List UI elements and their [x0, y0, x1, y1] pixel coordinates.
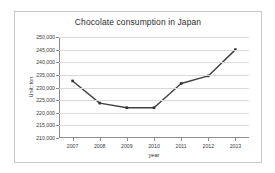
- x-tick-mark: [100, 138, 101, 141]
- y-tick-mark: [56, 75, 59, 76]
- gridline: [59, 62, 249, 63]
- x-tick-mark: [208, 138, 209, 141]
- x-tick-mark: [127, 138, 128, 141]
- y-axis-title: Unit: ton: [28, 77, 34, 98]
- y-tick-mark: [56, 125, 59, 126]
- data-point-marker: [126, 106, 129, 109]
- x-tick-mark: [235, 138, 236, 141]
- chart-container: Chocolate consumption in Japan 210,00021…: [14, 11, 262, 163]
- y-tick-label: 230,000: [36, 85, 55, 91]
- y-tick-mark: [56, 50, 59, 51]
- x-tick-label: 2008: [94, 143, 106, 149]
- y-tick-mark: [56, 62, 59, 63]
- x-tick-label: 2009: [121, 143, 133, 149]
- y-tick-mark: [56, 37, 59, 38]
- x-tick-mark: [73, 138, 74, 141]
- y-tick-label: 240,000: [36, 59, 55, 65]
- x-tick-label: 2012: [203, 143, 215, 149]
- gridline: [59, 125, 249, 126]
- chart-title: Chocolate consumption in Japan: [15, 17, 261, 27]
- x-tick-label: 2007: [67, 143, 79, 149]
- y-tick-mark: [56, 88, 59, 89]
- y-tick-mark: [56, 100, 59, 101]
- x-tick-mark: [154, 138, 155, 141]
- x-axis-title: year: [59, 152, 249, 158]
- x-tick-label: 2013: [230, 143, 242, 149]
- data-point-marker: [180, 82, 183, 85]
- gridline: [59, 100, 249, 101]
- x-tick-label: 2010: [148, 143, 160, 149]
- series-line: [73, 50, 236, 108]
- plot-area: 210,000215,000220,000225,000230,000235,0…: [59, 37, 249, 138]
- y-tick-mark: [56, 138, 59, 139]
- x-tick-label: 2011: [176, 143, 187, 149]
- x-tick-mark: [181, 138, 182, 141]
- gridline: [59, 113, 249, 114]
- y-tick-label: 250,000: [36, 34, 55, 40]
- data-point-marker: [71, 80, 74, 83]
- gridline: [59, 75, 249, 76]
- y-tick-label: 220,000: [36, 110, 55, 116]
- y-tick-label: 245,000: [36, 47, 55, 53]
- gridline: [59, 50, 249, 51]
- y-tick-label: 215,000: [36, 122, 55, 128]
- gridline: [59, 37, 249, 38]
- data-point-marker: [153, 106, 156, 109]
- gridline: [59, 88, 249, 89]
- y-tick-mark: [56, 113, 59, 114]
- y-tick-label: 210,000: [36, 135, 55, 141]
- y-tick-label: 225,000: [36, 97, 55, 103]
- data-point-marker: [98, 102, 101, 105]
- y-tick-label: 235,000: [36, 72, 55, 78]
